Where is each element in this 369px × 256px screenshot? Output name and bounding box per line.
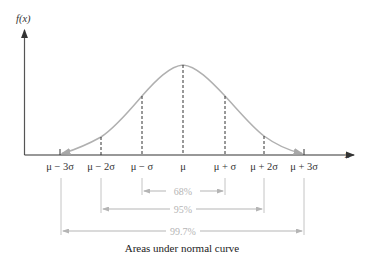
tick-label-plus-sigma: μ + σ [214, 161, 237, 172]
tick-label-mu: μ [180, 161, 186, 172]
tick-label-minus-sigma: μ − σ [131, 161, 154, 172]
interval-997-label: 99.7% [170, 226, 196, 237]
tick-label-minus-3sigma: μ − 3σ [46, 161, 74, 172]
interval-68-label: 68% [174, 186, 192, 197]
interval-95-label: 95% [174, 204, 192, 215]
tick-label-minus-2sigma: μ − 2σ [87, 161, 115, 172]
figure-caption: Areas under normal curve [125, 242, 240, 254]
normal-distribution-diagram: f(x) x μ − 3σ μ − 2σ μ − σ μ μ + σ μ + 2… [0, 0, 369, 256]
y-axis-label: f(x) [16, 13, 31, 25]
curve-left-arrow [62, 153, 66, 154]
tick-label-plus-3sigma: μ + 3σ [290, 161, 318, 172]
normal-curve [64, 65, 300, 153]
x-axis-label: x [344, 149, 350, 160]
curve-right-arrow [298, 153, 302, 154]
tick-label-plus-2sigma: μ + 2σ [250, 161, 278, 172]
